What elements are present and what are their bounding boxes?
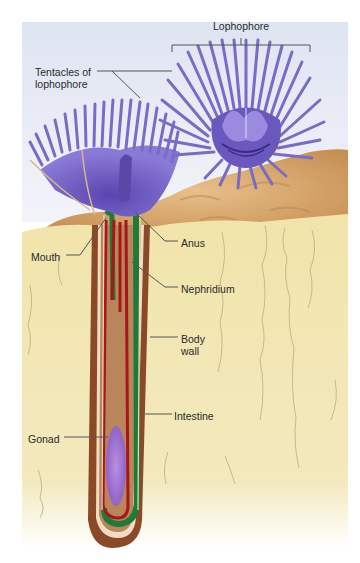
- label-intestine: Intestine: [174, 410, 214, 422]
- label-gonad: Gonad: [28, 433, 60, 445]
- label-body-wall: Body wall: [181, 333, 205, 357]
- gonad: [106, 426, 126, 506]
- label-tentacles-of-lophophore: Tentacles of lophophore: [35, 66, 91, 90]
- label-nephridium: Nephridium: [181, 283, 235, 295]
- sediment: [22, 214, 348, 548]
- label-lophophore: Lophophore: [213, 20, 269, 32]
- label-anus: Anus: [181, 237, 205, 249]
- label-mouth: Mouth: [31, 251, 60, 263]
